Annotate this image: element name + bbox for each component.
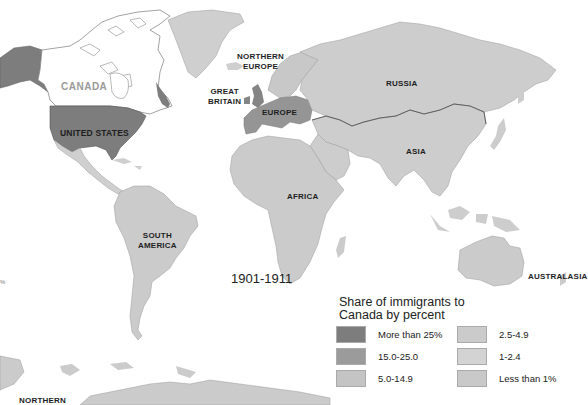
legend-item-label: More than 25% bbox=[378, 329, 442, 340]
legend-title-line2: Canada by percent bbox=[339, 309, 588, 322]
label-russia: RUSSIA bbox=[386, 79, 417, 89]
legend-item-label: 2.5-4.9 bbox=[499, 329, 529, 340]
legend-item-label: Less than 1% bbox=[499, 373, 557, 384]
legend-item-less-than-1: Less than 1% bbox=[457, 370, 557, 387]
legend-swatch bbox=[336, 326, 366, 343]
label-great-britain-line1: GREAT bbox=[208, 87, 241, 97]
legend-item-5-14-9: 5.0-14.9 bbox=[336, 370, 413, 387]
label-australasia: AUSTRALASIA bbox=[528, 272, 588, 282]
south-america-region bbox=[114, 186, 198, 340]
label-great-britain: GREAT BRITAIN bbox=[208, 87, 241, 107]
australasia-region bbox=[458, 236, 524, 286]
russia-region bbox=[300, 22, 556, 126]
label-europe: EUROPE bbox=[262, 108, 297, 118]
label-northern-europe-line2: EUROPE bbox=[237, 62, 284, 72]
label-united-states: UNITED STATES bbox=[60, 128, 129, 138]
label-great-britain-line2: BRITAIN bbox=[208, 97, 241, 107]
label-canada: CANADA bbox=[61, 82, 107, 92]
legend-item-label: 15.0-25.0 bbox=[378, 351, 418, 362]
legend-item-15-25: 15.0-25.0 bbox=[336, 348, 418, 365]
label-africa: AFRICA bbox=[287, 192, 318, 202]
legend: Share of immigrants to Canada by percent… bbox=[336, 296, 588, 322]
period-label: 1901-1911 bbox=[231, 271, 292, 286]
legend-swatch bbox=[457, 370, 487, 387]
label-south-america-line1: SOUTH bbox=[138, 231, 177, 241]
legend-item-1-2-4: 1-2.4 bbox=[457, 348, 521, 365]
legend-item-more-than-25: More than 25% bbox=[336, 326, 442, 343]
legend-item-label: 5.0-14.9 bbox=[378, 373, 413, 384]
world-map bbox=[0, 0, 588, 405]
great-britain-region bbox=[244, 84, 264, 108]
label-northern-europe-line1: NORTHERN bbox=[237, 52, 284, 62]
legend-item-2-5-4-9: 2.5-4.9 bbox=[457, 326, 529, 343]
legend-swatch bbox=[336, 348, 366, 365]
legend-item-label: 1-2.4 bbox=[499, 351, 521, 362]
edge-fragment-text: % bbox=[0, 279, 5, 285]
legend-swatch bbox=[457, 348, 487, 365]
label-south-america-line2: AMERICA bbox=[138, 241, 177, 251]
legend-swatch bbox=[336, 370, 366, 387]
label-northern-europe: NORTHERN EUROPE bbox=[237, 52, 284, 72]
legend-title: Share of immigrants to Canada by percent bbox=[339, 296, 588, 322]
canada-region bbox=[38, 10, 172, 114]
legend-swatch bbox=[457, 326, 487, 343]
label-asia: ASIA bbox=[406, 147, 426, 157]
label-northern-bottom: NORTHERN bbox=[19, 396, 66, 405]
label-south-america: SOUTH AMERICA bbox=[138, 231, 177, 251]
